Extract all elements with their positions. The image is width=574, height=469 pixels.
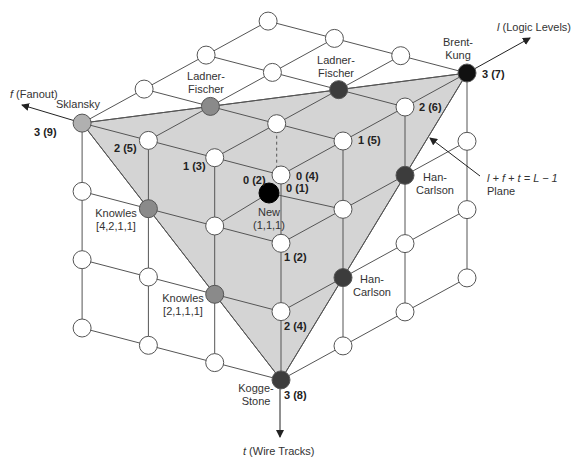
t-axis-label: t (Wire Tracks) [243,445,315,457]
ladner-fischer-1-node [201,97,219,115]
grid-node [73,251,91,269]
sklansky-label: Sklansky [56,98,101,110]
grid-node [325,29,343,47]
grid-edge [82,328,148,345]
value-label: 3 (7) [482,68,505,80]
sklansky-node [73,114,91,132]
value-label: 0 (2) [243,174,266,186]
kogge-stone-label: Stone [242,395,271,407]
value-label: 2 (6) [419,101,442,113]
kogge-stone-label: Kogge- [238,382,274,394]
han-carlson-2-label: Carlson [353,286,391,298]
grid-node [334,337,352,355]
grid-node [458,201,476,219]
grid-edge [206,21,268,55]
value-label: 2 (5) [114,142,137,154]
grid-node [206,217,224,235]
value-label: 0 (1) [286,182,309,194]
grid-node [263,63,281,81]
value-label: 2 (4) [284,320,307,332]
value-label: 1 (2) [284,251,307,263]
grid-node [73,319,91,337]
han-carlson-1-label: Han- [423,171,447,183]
plane-label: Plane [487,185,515,197]
knowles-2111-label: [2,1,1,1] [163,305,203,317]
grid-node [272,303,290,321]
grid-node [139,268,157,286]
ladner-fischer-1-label: Fischer [188,83,224,95]
knowles-2111-label: Knowles [162,292,204,304]
knowles-2111-node [206,285,224,303]
new-node [259,183,279,203]
new-node-label: New [258,206,280,218]
knowles-4211-label: [4,2,1,1] [96,220,136,232]
grid-node [259,12,277,30]
grid-edge [82,260,148,277]
grid-node [458,269,476,287]
grid-node [392,47,410,65]
grid-node [197,46,215,64]
grid-edge [268,21,334,38]
brent-kung-node [458,64,476,82]
value-label: 3 (8) [284,389,307,401]
grid-node [73,182,91,200]
grid-node [396,235,414,253]
grid-node [135,80,153,98]
value-label: 0 (4) [296,170,319,182]
value-label: 1 (3) [183,160,206,172]
l-axis-label: l (Logic Levels) [497,21,571,33]
value-label: 1 (5) [358,134,381,146]
ladner-fischer-2-label: Ladner- [317,54,355,66]
han-carlson-2-label: Han- [360,273,384,285]
grid-node [334,200,352,218]
brent-kung-label: Brent- [443,36,473,48]
grid-edge [343,312,405,346]
ladner-fischer-2-label: Fischer [318,67,354,79]
new-node-label: (1,1,1) [253,219,285,231]
grid-node [139,131,157,149]
grid-node [268,115,286,133]
han-carlson-1-label: Carlson [416,184,454,196]
grid-edge [405,210,467,244]
han-carlson-1-node [396,166,414,184]
prefix-adder-design-space-diagram: l (Logic Levels)f (Fanout)t (Wire Tracks… [0,0,574,469]
grid-node [206,149,224,167]
ladner-fischer-1-label: Ladner- [187,70,225,82]
grid-node [396,303,414,321]
grid-node [458,132,476,150]
ladner-fischer-2-node [330,81,348,99]
grid-node [334,132,352,150]
grid-edge [405,278,467,312]
grid-node [206,354,224,372]
f-axis-label: f (Fanout) [10,88,58,100]
grid-edge [148,345,214,362]
grid-node [139,336,157,354]
kogge-stone-node [272,371,290,389]
knowles-4211-node [139,200,157,218]
value-label: 3 (9) [34,126,57,138]
han-carlson-2-node [334,269,352,287]
grid-node [396,98,414,116]
grid-node [272,234,290,252]
knowles-4211-label: Knowles [95,207,137,219]
plane-equation-label: l + f + t = L − 1 [487,172,558,184]
brent-kung-label: Kung [445,49,471,61]
